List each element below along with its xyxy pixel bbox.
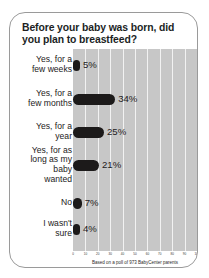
category-label: No <box>9 198 72 208</box>
x-tick-label: 30 <box>108 252 111 256</box>
bar-value-label: 21% <box>102 160 121 170</box>
x-tick-label: 20 <box>96 252 99 256</box>
bar <box>73 224 80 235</box>
bar-chart: Yes, for a few weeks5%Yes, for a few mon… <box>10 49 198 268</box>
bar <box>73 127 104 138</box>
chart-footnote: Based on a poll of 973 BabyCenter parent… <box>73 260 197 266</box>
x-tick-label: 70 <box>158 252 161 256</box>
x-tick-label: 80 <box>170 252 173 256</box>
bar <box>73 94 115 105</box>
x-tick-label: 40 <box>121 252 124 256</box>
bar-rows: Yes, for a few weeks5%Yes, for a few mon… <box>10 49 198 268</box>
bar-value-label: 34% <box>118 94 137 104</box>
bar-value-label: 7% <box>85 198 99 208</box>
category-label: Yes, for a few months <box>9 89 72 108</box>
x-tick-label: 60 <box>146 252 149 256</box>
gridline <box>197 49 198 251</box>
bar <box>73 160 99 171</box>
x-tick-label: 90 <box>183 252 186 256</box>
poll-chart-page: Before your baby was born, did you plan … <box>0 0 209 278</box>
category-label: Yes, for a few weeks <box>9 55 72 74</box>
category-label: I wasn't sure <box>9 219 72 238</box>
bar-value-label: 4% <box>83 224 97 234</box>
page-title: Before your baby was born, did you plan … <box>22 22 192 46</box>
bar <box>73 198 82 209</box>
bar-value-label: 25% <box>107 127 126 137</box>
bar-value-label: 5% <box>83 60 97 70</box>
x-tick-label: 50 <box>133 252 136 256</box>
x-tick-label: 0 <box>72 252 74 256</box>
poll-card: Before your baby was born, did you plan … <box>9 12 198 268</box>
bar <box>73 60 80 71</box>
category-label: Yes, for as long as my baby wanted <box>9 146 72 184</box>
category-label: Yes, for a year <box>9 122 72 141</box>
x-tick-label: 100 <box>194 252 198 256</box>
x-tick-label: 10 <box>84 252 87 256</box>
